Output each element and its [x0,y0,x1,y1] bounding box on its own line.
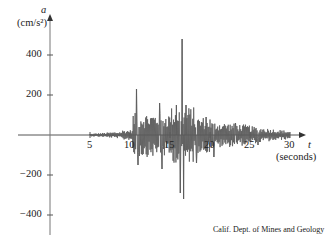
x-tick-label-25: 25 [244,139,255,150]
source-credit: Calif. Dept. of Mines and Geology [213,225,324,234]
x-tick-label-5: 5 [87,139,92,150]
y-tick-label-neg200: −200 [20,168,42,179]
x-tick-label-30: 30 [284,139,295,150]
x-tick-label-20: 20 [204,139,215,150]
y-axis-arrow-icon [47,14,53,21]
x-axis-arrow-icon [299,132,306,138]
acceleration-trace [90,39,290,199]
y-axis-unit: (cm/s²) [17,17,47,28]
seismogram-chart [0,0,333,251]
y-tick-label-neg400: −400 [20,208,42,219]
x-tick-label-10: 10 [124,139,135,150]
y-axis-symbol: a [41,4,46,15]
x-tick-label-15: 15 [164,139,175,150]
y-tick-label-400: 400 [26,48,42,59]
y-tick-label-200: 200 [26,88,42,99]
x-axis-unit: (seconds) [276,151,316,162]
x-axis-symbol: t [308,139,311,150]
